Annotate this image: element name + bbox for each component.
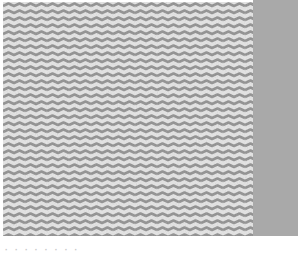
wave-pattern-graphic (3, 2, 254, 236)
wave-texture-panel (3, 2, 254, 236)
caption-text: · · · · · · · · (4, 241, 294, 255)
gray-color-swatch (253, 0, 298, 236)
